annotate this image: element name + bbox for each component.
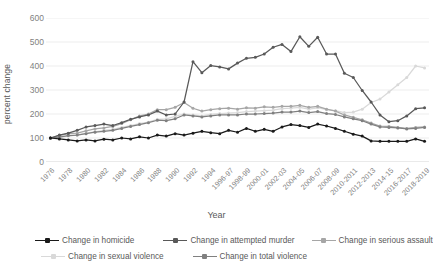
y-axis-tick-label: 400 [16, 62, 44, 70]
x-axis-title: Year [0, 210, 433, 220]
series-change-in-homicide [49, 123, 426, 143]
legend-label: Change in attempted murder [190, 236, 294, 245]
series-canvas [46, 18, 429, 162]
legend-line-icon [34, 235, 60, 245]
legend-line-icon [162, 235, 188, 245]
legend-label: Change in sexual violence [68, 252, 164, 261]
chart-legend: Change in homicide Change in attempted m… [0, 233, 433, 273]
legend-line-icon [192, 251, 218, 261]
legend-line-icon [40, 251, 66, 261]
legend-row-1: Change in homicide Change in attempted m… [0, 233, 433, 247]
legend-label: Change in homicide [62, 236, 134, 245]
x-axis-ticks: 1976197819801982198419861988199019921994… [46, 164, 429, 208]
y-axis-title: percent change [2, 110, 12, 124]
y-axis-tick-label: 500 [16, 38, 44, 46]
legend-line-icon [311, 235, 337, 245]
legend-label: Change in total violence [220, 252, 307, 261]
line-chart: percent change 0100200300400500600 19761… [0, 0, 433, 275]
legend-row-2: Change in sexual violence Change in tota… [0, 249, 433, 263]
legend-item-change-in-serious-assault[interactable]: Change in serious assault [311, 233, 433, 247]
legend-item-change-in-homicide[interactable]: Change in homicide [34, 233, 134, 247]
y-axis-tick-label: 600 [16, 14, 44, 22]
legend-item-change-in-attempted-murder[interactable]: Change in attempted murder [162, 233, 294, 247]
y-axis-tick-label: 100 [16, 134, 44, 142]
y-axis-tick-label: 200 [16, 110, 44, 118]
y-axis-tick-label: 300 [16, 86, 44, 94]
legend-label: Change in serious assault [339, 236, 433, 245]
plot-area [46, 18, 429, 162]
legend-item-change-in-sexual-violence[interactable]: Change in sexual violence [40, 249, 164, 263]
y-axis-tick-label: 0 [16, 158, 44, 166]
legend-item-change-in-total-violence[interactable]: Change in total violence [192, 249, 307, 263]
